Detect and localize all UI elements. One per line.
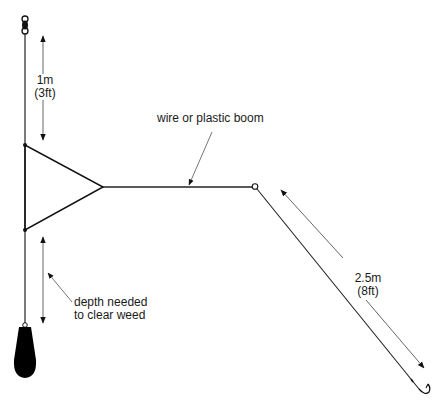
hook-icon <box>419 384 430 393</box>
diagram-canvas <box>0 0 442 412</box>
triangle-boom-frame <box>25 145 103 230</box>
rig-diagram: 1m (3ft) wire or plastic boom depth need… <box>0 0 442 412</box>
trace-length-label: 2.5m (8ft) <box>340 272 396 298</box>
depth-label: depth needed to clear weed <box>74 296 147 322</box>
boom-label-pointer <box>189 132 212 185</box>
trace-length-arrow-upper <box>281 190 343 258</box>
depth-label-line2: to clear weed <box>74 309 147 322</box>
boom-ring-icon <box>252 184 258 190</box>
swivel-icon <box>22 16 28 34</box>
upper-length-imperial: (3ft) <box>33 87 57 100</box>
trace-length-imperial: (8ft) <box>340 285 396 298</box>
lead-weight-icon <box>14 323 36 378</box>
upper-length-label: 1m (3ft) <box>33 74 57 100</box>
boom-label: wire or plastic boom <box>157 112 264 125</box>
depth-label-pointer <box>48 273 72 302</box>
